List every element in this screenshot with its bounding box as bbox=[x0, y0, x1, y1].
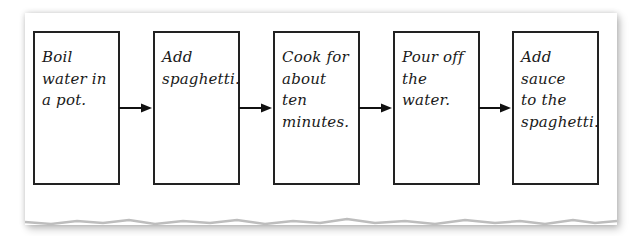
arrow-right-icon bbox=[359, 101, 393, 115]
step-box-4: Pour off the water. bbox=[393, 31, 480, 185]
step-box-5: Add sauce to the spaghetti. bbox=[512, 31, 599, 185]
step-box-1: Boil water in a pot. bbox=[33, 31, 120, 185]
step-text-2: Add spaghetti. bbox=[162, 47, 235, 90]
step-1-line-3: a pot. bbox=[42, 90, 115, 112]
step-3-line-1: Cook for bbox=[282, 47, 355, 69]
arrow-right-icon bbox=[239, 101, 273, 115]
arrow-right-icon bbox=[119, 101, 153, 115]
step-box-2: Add spaghetti. bbox=[153, 31, 240, 185]
step-text-5: Add sauce to the spaghetti. bbox=[521, 47, 594, 133]
step-text-4: Pour off the water. bbox=[402, 47, 475, 112]
step-4-line-2: the water. bbox=[402, 69, 475, 112]
step-2-line-2: spaghetti. bbox=[162, 69, 235, 91]
step-text-3: Cook for about ten minutes. bbox=[282, 47, 355, 133]
step-3-line-2: about ten bbox=[282, 69, 355, 112]
step-5-line-2: to the bbox=[521, 90, 594, 112]
torn-edge bbox=[25, 213, 617, 229]
step-5-line-1: Add sauce bbox=[521, 47, 594, 90]
step-1-line-1: Boil bbox=[42, 47, 115, 69]
step-3-line-3: minutes. bbox=[282, 112, 355, 134]
step-4-line-1: Pour off bbox=[402, 47, 475, 69]
arrow-right-icon bbox=[479, 101, 512, 115]
step-5-line-3: spaghetti. bbox=[521, 112, 594, 134]
step-1-line-2: water in bbox=[42, 69, 115, 91]
step-text-1: Boil water in a pot. bbox=[42, 47, 115, 112]
step-2-line-1: Add bbox=[162, 47, 235, 69]
step-box-3: Cook for about ten minutes. bbox=[273, 31, 360, 185]
